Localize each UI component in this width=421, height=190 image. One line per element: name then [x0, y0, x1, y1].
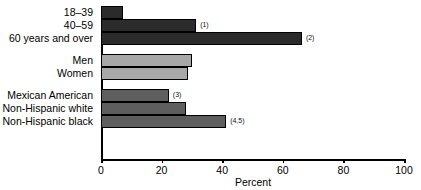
category-axis-labels: 18–3940–5960 years and overMenWomenMexic… [0, 0, 97, 160]
plot-area: (1)(2)(3)(4,5) [101, 6, 404, 159]
bar [101, 32, 302, 45]
category-label: 40–59 [64, 20, 93, 31]
category-label: Non-Hispanic white [3, 103, 93, 114]
value-axis-tick [283, 159, 285, 163]
category-label: Non-Hispanic black [3, 116, 93, 127]
value-axis-title: Percent [101, 176, 405, 188]
bar [101, 67, 188, 80]
bar-chart: 18–3940–5960 years and overMenWomenMexic… [0, 0, 421, 190]
bar-footnote-marker: (3) [173, 88, 182, 101]
bar [101, 6, 123, 19]
category-label: 18–39 [64, 7, 93, 18]
value-axis-tick [162, 159, 164, 163]
bar [101, 115, 226, 128]
value-axis-tick-label: 100 [384, 164, 421, 176]
value-axis-tick-label: 20 [142, 164, 182, 176]
value-axis-tick [404, 159, 406, 163]
category-label: 60 years and over [9, 33, 93, 44]
value-axis-tick [101, 159, 103, 163]
category-label: Women [57, 68, 93, 79]
category-label: Men [73, 55, 93, 66]
value-axis-tick-label: 80 [323, 164, 363, 176]
bar-footnote-marker: (2) [306, 31, 315, 44]
bar [101, 54, 192, 67]
bar [101, 102, 186, 115]
bar-footnote-marker: (4,5) [230, 114, 244, 127]
bar-footnote-marker: (1) [200, 18, 209, 31]
value-axis-tick-label: 0 [81, 164, 121, 176]
value-axis-tick [343, 159, 345, 163]
category-label: Mexican American [7, 90, 93, 101]
value-axis-tick-label: 40 [202, 164, 242, 176]
value-axis-line [101, 159, 405, 161]
bar [101, 89, 169, 102]
value-axis-tick-label: 60 [263, 164, 303, 176]
value-axis-tick [222, 159, 224, 163]
bar [101, 19, 196, 32]
